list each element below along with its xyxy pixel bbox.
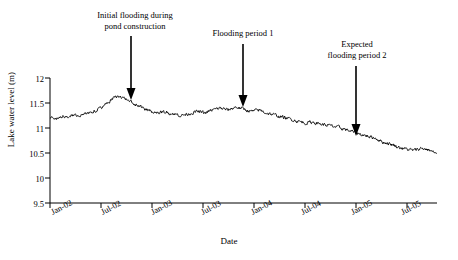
lake-water-level-chart: Lake water level (m) Date 12 11.5 11 10.…: [0, 0, 458, 260]
annotation-arrow-1-icon: [127, 36, 136, 100]
annotation-arrow-2-icon: [239, 44, 248, 107]
chart-svg: [0, 0, 458, 260]
annotation-arrow-3-icon: [352, 66, 361, 136]
